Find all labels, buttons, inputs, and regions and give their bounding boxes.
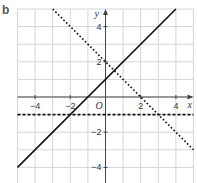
y-tick-label: 2 xyxy=(96,57,101,67)
x-tick-label: −4 xyxy=(30,101,40,111)
line-chart: −4−22442−2−4xyO xyxy=(0,0,197,183)
y-axis-label: y xyxy=(94,8,100,19)
y-tick-label: −4 xyxy=(91,162,101,172)
y-axis-arrow-icon xyxy=(103,9,108,15)
x-tick-label: −2 xyxy=(65,101,75,111)
series-line-solid xyxy=(18,9,176,167)
x-tick-label: 2 xyxy=(138,101,143,111)
y-tick-label: −2 xyxy=(91,127,101,137)
x-axis-label: x xyxy=(187,99,193,110)
origin-label: O xyxy=(96,100,103,111)
x-tick-label: 4 xyxy=(173,101,178,111)
y-tick-label: 4 xyxy=(96,22,101,32)
